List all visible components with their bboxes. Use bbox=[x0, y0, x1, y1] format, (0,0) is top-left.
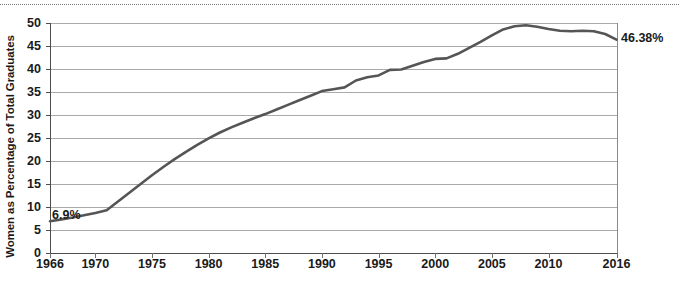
x-tick-label: 1995 bbox=[349, 258, 409, 271]
y-tick-label: 30 bbox=[0, 109, 41, 122]
y-tick-label: 5 bbox=[0, 224, 41, 237]
line-chart-figure: Women as Percentage of Total Graduates 0… bbox=[0, 0, 679, 293]
y-tick-label: 20 bbox=[0, 155, 41, 168]
data-series-line bbox=[50, 23, 617, 253]
x-tick-label: 1980 bbox=[179, 258, 239, 271]
x-tick-label: 1985 bbox=[235, 258, 295, 271]
x-tick-mark bbox=[322, 253, 323, 258]
x-tick-label: 1970 bbox=[65, 258, 125, 271]
x-tick-label: 1975 bbox=[122, 258, 182, 271]
x-tick-mark bbox=[617, 253, 618, 258]
x-axis-line bbox=[50, 253, 617, 254]
x-tick-label: 2005 bbox=[462, 258, 522, 271]
y-tick-label: 45 bbox=[0, 40, 41, 53]
y-tick-label: 15 bbox=[0, 178, 41, 191]
x-tick-mark bbox=[209, 253, 210, 258]
y-tick-label: 25 bbox=[0, 132, 41, 145]
x-tick-mark bbox=[549, 253, 550, 258]
y-tick-label: 35 bbox=[0, 86, 41, 99]
x-tick-mark bbox=[152, 253, 153, 258]
annotation-start-value: 6.9% bbox=[52, 209, 81, 222]
x-tick-mark bbox=[492, 253, 493, 258]
x-tick-mark bbox=[265, 253, 266, 258]
x-tick-mark bbox=[379, 253, 380, 258]
x-tick-mark bbox=[95, 253, 96, 258]
x-tick-label: 2000 bbox=[405, 258, 465, 271]
x-tick-label: 2016 bbox=[587, 258, 647, 271]
x-tick-label: 1990 bbox=[292, 258, 352, 271]
x-tick-label: 2010 bbox=[519, 258, 579, 271]
annotation-end-value: 46.38% bbox=[621, 32, 663, 45]
x-tick-mark bbox=[50, 253, 51, 258]
y-tick-label: 50 bbox=[0, 17, 41, 30]
y-tick-label: 40 bbox=[0, 63, 41, 76]
x-tick-mark bbox=[435, 253, 436, 258]
y-tick-label: 10 bbox=[0, 201, 41, 214]
